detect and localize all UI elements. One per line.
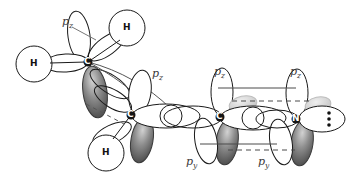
orbital-label-py-1: py [186,156,197,170]
diagram-canvas [0,0,348,181]
hydrogen-label-3: H [102,148,110,157]
node-circle-c3n [242,107,264,129]
sp-lobe-n-lonepair [299,106,345,132]
atom-label-c3: C [216,112,223,121]
orbital-label-pz-1: pz [62,16,73,30]
atom-label-n: N [292,114,300,123]
orbital-label-py-2: py [258,156,269,170]
orbital-label-pz-2: pz [152,68,163,82]
hydrogen-label-2: H [123,23,131,32]
orbital-diagram-figure: C C C N H H H pz pz pz pz py py [0,0,348,181]
orbital-label-pz-3: pz [214,66,225,80]
orbital-label-pz-4: pz [290,66,301,80]
atom-label-c2: C [127,110,134,119]
hydrogen-label-1: H [30,59,38,68]
lone-pair-dots [327,111,331,127]
atom-label-c1: C [84,57,91,66]
